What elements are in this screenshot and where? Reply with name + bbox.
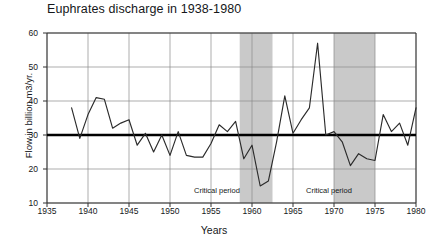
critical-period-label-1: Critical period bbox=[194, 186, 240, 195]
x-tick-1945: 1945 bbox=[112, 206, 146, 216]
y-tick-50: 50 bbox=[16, 62, 38, 72]
x-tick-1970: 1970 bbox=[317, 206, 351, 216]
y-tick-60: 60 bbox=[16, 28, 38, 38]
x-tick-1950: 1950 bbox=[153, 206, 187, 216]
chart-title: Euphrates discharge in 1938-1980 bbox=[47, 2, 241, 16]
shaded-bands-group bbox=[240, 33, 375, 203]
y-tick-40: 40 bbox=[16, 96, 38, 106]
x-tick-1940: 1940 bbox=[71, 206, 105, 216]
y-tick-30: 30 bbox=[16, 130, 38, 140]
chart-figure: Euphrates discharge in 1938-1980 Flow in… bbox=[0, 0, 428, 243]
y-tick-20: 20 bbox=[16, 164, 38, 174]
shaded-band-2 bbox=[334, 33, 375, 203]
x-tick-1955: 1955 bbox=[194, 206, 228, 216]
x-tick-1980: 1980 bbox=[399, 206, 428, 216]
x-tick-1975: 1975 bbox=[358, 206, 392, 216]
x-tick-1935: 1935 bbox=[30, 206, 64, 216]
x-tick-1960: 1960 bbox=[235, 206, 269, 216]
shaded-band-1 bbox=[240, 33, 273, 203]
x-axis-label: Years bbox=[0, 224, 428, 236]
x-tick-1965: 1965 bbox=[276, 206, 310, 216]
critical-period-label-2: Critical period bbox=[306, 186, 352, 195]
